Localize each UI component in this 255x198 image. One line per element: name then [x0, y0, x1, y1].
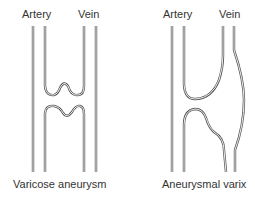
varicose-aneurysm-diagram [33, 26, 96, 172]
vessel-diagrams [0, 0, 255, 198]
vein-label: Vein [78, 8, 99, 20]
artery-label: Artery [22, 8, 51, 20]
artery-label: Artery [163, 8, 192, 20]
aneurysmal-varix-diagram [172, 26, 244, 172]
aneurysmal-varix-caption: Aneurysmal varix [162, 178, 246, 190]
varicose-aneurysm-caption: Varicose aneurysm [13, 178, 106, 190]
vein-label: Vein [219, 8, 240, 20]
